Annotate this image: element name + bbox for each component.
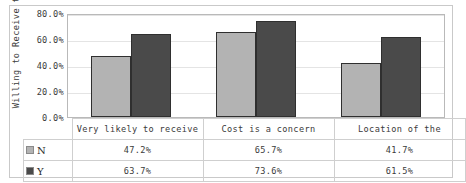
- data-value-cell: 65.7%: [203, 140, 334, 161]
- legend-label: N: [37, 145, 46, 156]
- y-axis-tick-60: 60.0%: [20, 35, 64, 45]
- y-axis-tick-labels: 0.0%20.0%40.0%60.0%80.0%: [20, 10, 64, 117]
- bar-group: [319, 15, 444, 117]
- category-header-cell: Location of the: [334, 119, 465, 140]
- legend-cell-n: N: [24, 140, 73, 161]
- plot-area: [67, 14, 445, 118]
- bar-n[interactable]: [216, 32, 256, 117]
- legend-cell-y: Y: [24, 161, 73, 182]
- bar-n[interactable]: [341, 63, 381, 117]
- table-row: N47.2%65.7%41.7%: [24, 140, 466, 161]
- data-value-cell: 41.7%: [334, 140, 465, 161]
- y-axis-tick-80: 80.0%: [20, 9, 64, 19]
- bar-group: [193, 15, 318, 117]
- data-value-cell: 63.7%: [72, 161, 203, 182]
- category-header-cell: Very likely to receive: [72, 119, 203, 140]
- data-value-cell: 61.5%: [334, 161, 465, 182]
- category-header-cell: Cost is a concern: [203, 119, 334, 140]
- legend-swatch-n-icon: [26, 146, 34, 154]
- table-corner-cell: [24, 119, 73, 140]
- data-value-cell: 73.6%: [203, 161, 334, 182]
- data-value-cell: 47.2%: [72, 140, 203, 161]
- bar-y[interactable]: [381, 37, 421, 117]
- legend-label: Y: [37, 166, 44, 177]
- bar-y[interactable]: [131, 34, 171, 117]
- bar-y[interactable]: [256, 21, 296, 117]
- table-header-row: Very likely to receiveCost is a concernL…: [24, 119, 466, 140]
- table-row: Y63.7%73.6%61.5%: [24, 161, 466, 182]
- legend-swatch-y-icon: [26, 167, 34, 175]
- chart-data-table: Very likely to receiveCost is a concernL…: [23, 118, 466, 182]
- y-axis-tick-40: 40.0%: [20, 61, 64, 71]
- y-axis-tick-20: 20.0%: [20, 87, 64, 97]
- bar-group: [68, 15, 193, 117]
- bar-n[interactable]: [91, 56, 131, 117]
- bar-series-layer: [68, 15, 444, 117]
